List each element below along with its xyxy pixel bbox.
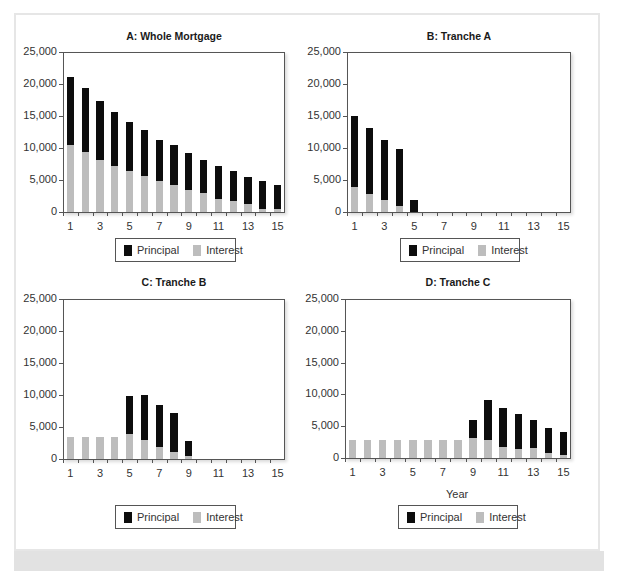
chart-b-ytick-label: 25,000 [289, 45, 341, 57]
chart-b-xtick [496, 212, 497, 216]
chart-d-ytick [341, 363, 345, 364]
chart-a-bar-interest [200, 193, 207, 212]
chart-b-xtick-label: 7 [434, 220, 454, 232]
chart-a-ytick [59, 84, 63, 85]
chart-a-bar-principal [126, 122, 133, 171]
chart-d-xtick [405, 458, 406, 462]
legend-label-interest: Interest [491, 244, 528, 256]
chart-b-xtick [407, 212, 408, 216]
legend-item-principal: Principal [409, 244, 464, 256]
chart-d-xtick-label: 13 [523, 466, 543, 478]
chart-a-xtick [211, 212, 212, 216]
chart-a-bar-principal [170, 145, 177, 185]
chart-c-bar-interest [170, 452, 177, 459]
chart-d-ytick-label: 5,000 [287, 419, 339, 431]
legend-swatch-interest [193, 512, 201, 523]
chart-b-xtick [481, 212, 482, 216]
chart-a-bar-interest [185, 190, 192, 212]
chart-d-xtick [420, 458, 421, 462]
chart-c-xtick-label: 1 [60, 467, 80, 479]
chart-a-xtick [63, 212, 64, 216]
chart-d-xtick [556, 458, 557, 462]
chart-c-ytick-label: 20,000 [5, 324, 57, 336]
chart-a-xtick-label: 7 [149, 220, 169, 232]
chart-c-xtick-label: 11 [208, 467, 228, 479]
chart-d-bar-interest [394, 440, 402, 458]
chart-d-xtick-label: 1 [343, 466, 363, 478]
chart-b-bar-interest [381, 200, 388, 212]
chart-a-bar-principal [259, 181, 266, 209]
chart-d-xtick [466, 458, 467, 462]
legend-label-principal: Principal [420, 511, 462, 523]
chart-a-bar-interest [67, 145, 74, 212]
chart-a-xtick [152, 212, 153, 216]
legend-label-interest: Interest [206, 511, 243, 523]
chart-a-xtick-label: 1 [60, 220, 80, 232]
chart-d-xtick [526, 458, 527, 462]
chart-d-xtick-label: 15 [553, 466, 573, 478]
chart-a-bar-interest [215, 199, 222, 212]
chart-d-bar-interest [364, 440, 372, 458]
chart-d-xtick-label: 7 [433, 466, 453, 478]
chart-c-ytick-label: 25,000 [5, 292, 57, 304]
chart-d-xtick-label: 9 [463, 466, 483, 478]
chart-c-ytick-label: 15,000 [5, 356, 57, 368]
chart-b-xtick [362, 212, 363, 216]
legend-item-interest: Interest [193, 244, 243, 256]
chart-b-xtick [511, 212, 512, 216]
chart-d-bar-interest [454, 440, 462, 458]
chart-d-legend: PrincipalInterest [398, 505, 518, 529]
chart-a-bar-principal [156, 140, 163, 182]
chart-a-xtick [181, 212, 182, 216]
chart-a-xtick [167, 212, 168, 216]
chart-a-xtick-label: 3 [90, 220, 110, 232]
legend-item-principal: Principal [124, 511, 179, 523]
chart-c-bar-interest [156, 447, 163, 459]
chart-d-ytick-label: 0 [287, 451, 339, 463]
chart-d-bar-interest [545, 453, 553, 458]
chart-b-xtick [452, 212, 453, 216]
chart-b-bar-principal [396, 149, 403, 206]
chart-c-xtick [167, 459, 168, 463]
chart-d-bar-interest [515, 449, 523, 458]
chart-d-bar-principal [499, 408, 507, 447]
chart-c-xtick-label: 7 [149, 467, 169, 479]
chart-d-ytick-label: 10,000 [287, 387, 339, 399]
chart-b-xtick-label: 3 [374, 220, 394, 232]
chart-c-xtick [241, 459, 242, 463]
chart-a-ytick-label: 10,000 [5, 141, 57, 153]
chart-c-ytick [59, 331, 63, 332]
chart-a-bar-principal [111, 112, 118, 166]
chart-c-xtick [270, 459, 271, 463]
chart-a-bar-interest [141, 176, 148, 212]
chart-b-xtick-label: 11 [494, 220, 514, 232]
chart-d-bar-principal [469, 420, 477, 438]
chart-c-xtick [93, 459, 94, 463]
chart-b-ytick-label: 20,000 [289, 77, 341, 89]
legend-label-interest: Interest [206, 244, 243, 256]
chart-c-ytick [59, 395, 63, 396]
legend-item-interest: Interest [193, 511, 243, 523]
chart-d-title: D: Tranche C [345, 276, 571, 288]
chart-a-xtick [196, 212, 197, 216]
chart-d-bar-principal [515, 414, 523, 449]
chart-b-xtick [422, 212, 423, 216]
chart-d-xtick [375, 458, 376, 462]
chart-d-bar-interest [349, 440, 357, 458]
chart-a-ytick-label: 5,000 [5, 173, 57, 185]
chart-b-xtick [347, 212, 348, 216]
legend-swatch-principal [409, 245, 417, 256]
chart-c-xtick [181, 459, 182, 463]
chart-c-bar-interest [111, 437, 118, 459]
legend-item-interest: Interest [478, 244, 528, 256]
legend-swatch-interest [476, 512, 484, 523]
chart-b-xtick-label: 1 [344, 220, 364, 232]
chart-b-xtick-label: 13 [524, 220, 544, 232]
chart-d-bar-interest [439, 440, 447, 458]
chart-c-bar-interest [185, 456, 192, 459]
chart-b-legend: PrincipalInterest [400, 238, 520, 262]
chart-a-xtick [137, 212, 138, 216]
chart-a-xtick [226, 212, 227, 216]
chart-d-ytick [341, 331, 345, 332]
chart-d-bar-interest [499, 447, 507, 458]
